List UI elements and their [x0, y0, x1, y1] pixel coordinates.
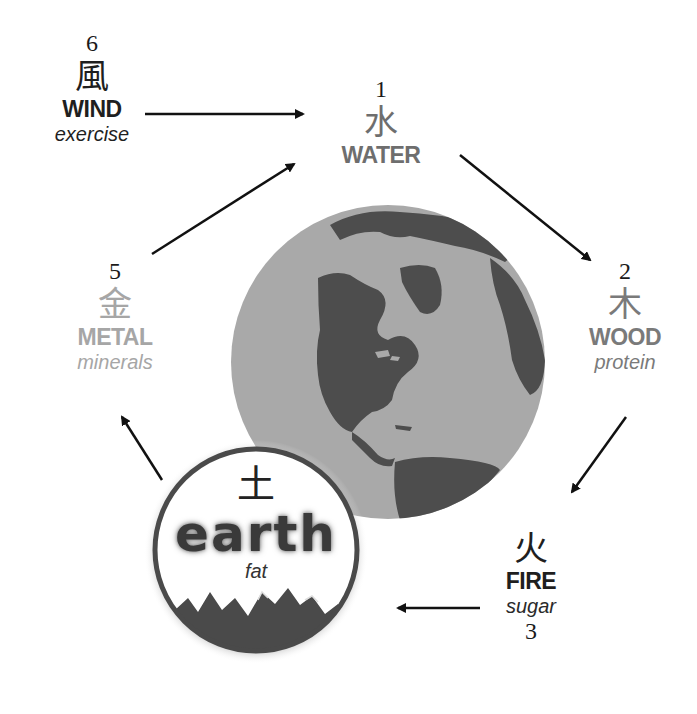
kanji-metal: 金 [45, 284, 185, 324]
element-food: sugar [461, 594, 601, 618]
order-number: 6 [22, 30, 162, 56]
node-wind: 6 風 WIND exercise [22, 30, 162, 146]
element-name: WOOD [555, 324, 695, 350]
element-name: earth [156, 506, 356, 562]
element-food: exercise [22, 122, 162, 146]
node-fire: 火 FIRE sugar 3 [461, 528, 601, 644]
element-food: protein [555, 350, 695, 374]
order-number: 3 [461, 618, 601, 644]
kanji-fire: 火 [461, 528, 601, 568]
node-metal: 5 金 METAL minerals [45, 258, 185, 374]
node-wood: 2 木 WOOD protein [555, 258, 695, 374]
kanji-wind: 風 [22, 56, 162, 96]
arrow-metal-to-water [152, 164, 294, 254]
node-water: 1 水 WATER [311, 76, 451, 168]
order-number: 5 [45, 258, 185, 284]
arrow-wood-to-fire [572, 417, 626, 492]
kanji-wood: 木 [555, 284, 695, 324]
element-food: fat [156, 560, 356, 582]
kanji-water: 水 [311, 102, 451, 142]
order-number: 1 [311, 76, 451, 102]
element-food: minerals [45, 350, 185, 374]
element-name: METAL [45, 324, 185, 350]
element-name: WIND [22, 96, 162, 122]
element-name: WATER [311, 142, 451, 168]
kanji-earth: 土 [156, 462, 356, 506]
node-earth: 土 earth fat [156, 462, 356, 582]
element-name: FIRE [461, 568, 601, 594]
order-number: 2 [555, 258, 695, 284]
